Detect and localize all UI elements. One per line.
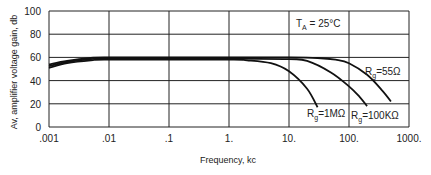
x-axis-ticks: .001.01.11.10.100.1000. [39,133,421,144]
x-tick-label: 10. [282,133,296,144]
gain-curves [49,57,391,107]
y-tick-label: 60 [30,52,42,63]
x-tick-label: .01 [102,133,116,144]
y-axis-label: Av, amplifier voltage gain, db [9,15,19,130]
legend-rg-1m: Rg=1MΩ [307,108,346,122]
x-tick-label: 100. [339,133,358,144]
y-tick-label: 20 [30,99,42,110]
y-tick-label: 80 [30,29,42,40]
y-axis-ticks: 020406080100 [24,6,41,133]
legend-rg-100k: Rg=100KΩ [351,110,399,124]
y-tick-label: 40 [30,76,42,87]
x-tick-label: .001 [39,133,59,144]
gain-frequency-chart: 020406080100 .001.01.11.10.100.1000. Fre… [0,0,431,175]
x-tick-label: 1000. [396,133,421,144]
x-tick-label: .1 [165,133,174,144]
gain-curve [49,59,367,107]
temperature-annotation: TA = 25°C [296,18,341,31]
y-tick-label: 100 [24,6,41,17]
x-axis-label: Frequency, kc [200,155,256,165]
gain-curve [49,60,318,108]
y-tick-label: 0 [35,122,41,133]
x-tick-label: 1. [225,133,233,144]
